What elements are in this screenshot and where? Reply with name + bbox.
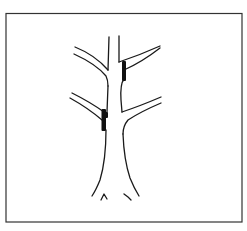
lower-left-branch-bottom-edge [70, 98, 102, 120]
upper-left-branch-bottom-edge [74, 54, 108, 86]
upper-left-branch-top-edge [75, 47, 108, 70]
upper-right-branch-top-edge [119, 46, 160, 62]
root-flare-mark-right [124, 194, 131, 200]
frame-border [6, 14, 242, 223]
tree-pruning-illustration [0, 0, 247, 231]
lower-right-branch-bottom-edge [123, 103, 161, 134]
root-flare-mark-left [101, 194, 107, 200]
trunk-left-edge-lower [92, 130, 106, 196]
trunk-right-edge-upper [121, 79, 124, 112]
illustration-frame [0, 0, 247, 231]
trunk-right-edge-lower [123, 134, 139, 196]
lower-left-cut-mark-tip [104, 112, 108, 118]
trunk-left-edge-upper [107, 86, 108, 112]
lower-right-branch-top-edge [122, 97, 161, 112]
central-leader-left-edge [108, 37, 109, 70]
upper-right-cut-mark [122, 61, 126, 81]
